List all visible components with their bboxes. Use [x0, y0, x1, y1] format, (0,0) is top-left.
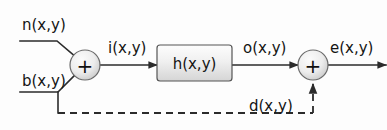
label-error-output: e(x,y): [330, 39, 373, 57]
label-intermediate: i(x,y): [108, 39, 146, 57]
diagram-svg: h(x,y) + + n(x,y) b(x,y) i(x,y) o(x,y) d…: [0, 0, 387, 130]
wire-noise-input: [20, 41, 76, 57]
block-h-label: h(x,y): [173, 55, 217, 73]
label-feedback: d(x,y): [249, 97, 293, 115]
summing-junction-2-symbol: +: [305, 54, 322, 78]
summing-junction-1-symbol: +: [77, 54, 94, 78]
block-diagram-canvas: h(x,y) + + n(x,y) b(x,y) i(x,y) o(x,y) d…: [0, 0, 387, 130]
label-noise-input: n(x,y): [22, 16, 66, 34]
label-blur-input: b(x,y): [22, 72, 66, 90]
label-output: o(x,y): [243, 39, 286, 57]
